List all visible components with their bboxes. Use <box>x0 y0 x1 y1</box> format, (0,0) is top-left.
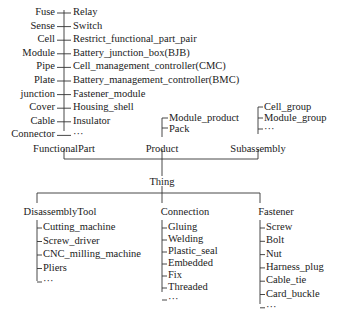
functional-part-subitem: Relay <box>73 6 98 18</box>
product-label: Product <box>146 143 179 155</box>
functional-part-item: Connector <box>11 128 55 140</box>
subassembly-label: Subassembly <box>230 143 285 155</box>
functional-part-item: junction <box>21 88 55 100</box>
functional-part-subitem: Switch <box>73 20 102 32</box>
functional-part-item: Pipe <box>36 60 55 72</box>
fastener-child: Cable_tie <box>266 274 306 286</box>
connection-child: Plastic_seal <box>168 245 218 257</box>
disassembly-tool-child: Cutting_machine <box>43 221 115 233</box>
fastener-child: ··· <box>266 301 277 313</box>
functional-part-item: Cover <box>29 101 55 113</box>
root-thing-label: Thing <box>149 176 174 188</box>
functional-part-subitem: Cell_management_controller(CMC) <box>73 60 226 72</box>
connection-child: ··· <box>168 293 179 305</box>
functional-part-subitem: ··· <box>73 128 84 140</box>
connection-child: Gluing <box>168 221 197 233</box>
functional-part-subitem: Fastener_module <box>73 88 145 100</box>
functional-part-subitem: Battery_management_controller(BMC) <box>73 74 239 86</box>
functional-part-item: Cell <box>38 33 56 45</box>
functional-part-item: Module <box>22 47 55 59</box>
fastener-label: Fastener <box>258 206 294 218</box>
disassembly-tool-child: ··· <box>43 275 54 287</box>
fastener-child: Harness_plug <box>266 261 324 273</box>
functional-part-subitem: Restrict_functional_part_pair <box>73 33 197 45</box>
fastener-child: Card_buckle <box>266 288 320 300</box>
functional-part-subitem: Battery_junction_box(BJB) <box>73 47 190 59</box>
connection-label: Connection <box>161 206 209 218</box>
fastener-child: Screw <box>266 221 292 233</box>
functional-part-label: FunctionalPart <box>33 143 95 155</box>
disassembly-tool-label: DisassemblyTool <box>24 206 97 218</box>
subassembly-child: ··· <box>264 123 275 135</box>
functional-part-subitem: Insulator <box>73 115 110 127</box>
connection-child: Threaded <box>168 281 208 293</box>
functional-part-item: Fuse <box>35 6 55 18</box>
functional-part-item: Cable <box>31 115 56 127</box>
connection-child: Fix <box>168 269 182 281</box>
product-child: Pack <box>169 123 189 135</box>
functional-part-subitem: Housing_shell <box>73 101 134 113</box>
functional-part-item: Sense <box>31 20 56 32</box>
disassembly-tool-child: Pliers <box>43 262 67 274</box>
disassembly-tool-child: Screw_driver <box>43 235 100 247</box>
connection-child: Embedded <box>168 257 213 269</box>
fastener-child: Nut <box>266 248 282 260</box>
disassembly-tool-child: CNC_milling_machine <box>43 248 141 260</box>
fastener-child: Bolt <box>266 234 284 246</box>
connection-child: Welding <box>168 233 203 245</box>
functional-part-item: Plate <box>34 74 55 86</box>
